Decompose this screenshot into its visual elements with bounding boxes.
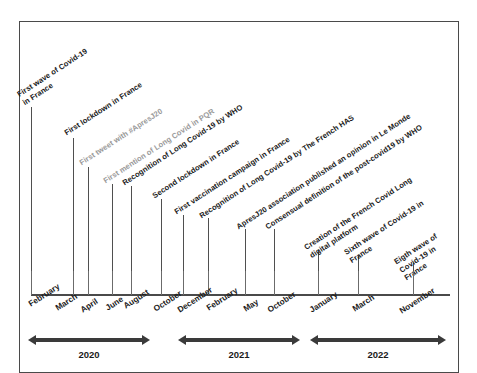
year-label-2020: 2020: [28, 349, 150, 360]
axis-tick-6: [161, 271, 162, 295]
year-range-2021: [178, 333, 300, 347]
axis-tick-12: [358, 271, 359, 295]
year-bar: [185, 338, 293, 342]
year-range-2020: [28, 333, 150, 347]
axis-tick-3: [88, 271, 89, 295]
arrow-right-icon: [142, 335, 150, 345]
year-bar: [35, 338, 143, 342]
axis-tick-10: [274, 271, 275, 295]
axis-tick-4: [112, 271, 113, 295]
axis-tick-11: [318, 271, 319, 295]
axis-tick-9: [245, 271, 246, 295]
axis-tick-5: [131, 271, 132, 295]
year-label-2021: 2021: [178, 349, 300, 360]
axis-tick-13: [413, 271, 414, 295]
axis-tick-1: [31, 271, 32, 295]
arrow-right-icon: [438, 335, 446, 345]
year-bar: [317, 338, 439, 342]
event-stem-1: [31, 107, 32, 294]
timeline-axis: [31, 294, 450, 296]
year-range-2022: [310, 333, 446, 347]
axis-tick-7: [183, 271, 184, 295]
arrow-right-icon: [292, 335, 300, 345]
year-label-2022: 2022: [310, 349, 446, 360]
